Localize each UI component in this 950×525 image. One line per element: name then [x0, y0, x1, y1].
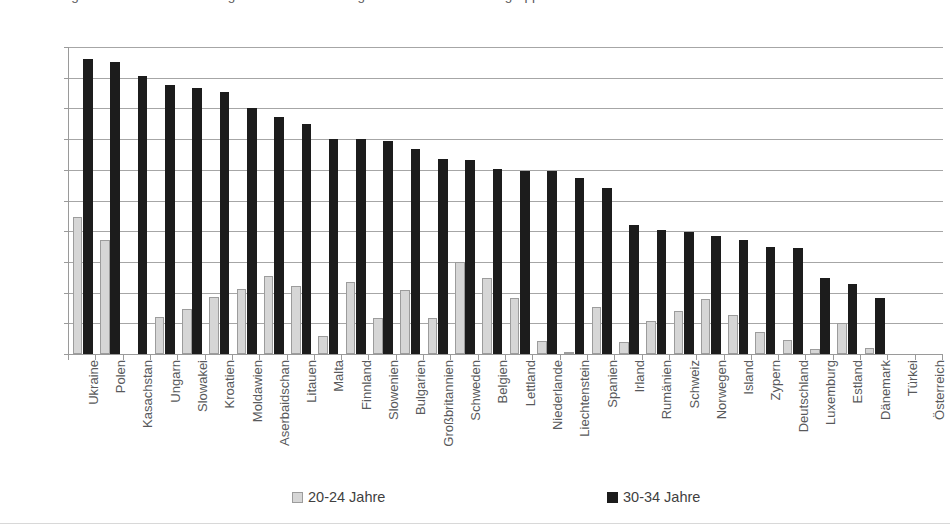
bar-series-30-34[interactable] [383, 141, 393, 354]
bar-series-30-34[interactable] [875, 298, 885, 354]
bar-group[interactable] [806, 47, 833, 354]
bar-series-20-24[interactable] [592, 307, 602, 354]
bar-group[interactable] [342, 47, 369, 354]
bar-group[interactable] [506, 47, 533, 354]
bar-series-20-24[interactable] [318, 336, 328, 354]
bar-series-20-24[interactable] [264, 276, 274, 354]
bar-series-20-24[interactable] [482, 278, 492, 354]
bar-group[interactable] [779, 47, 806, 354]
bar-series-20-24[interactable] [209, 297, 219, 354]
bar-group[interactable] [69, 47, 96, 354]
bar-series-20-24[interactable] [73, 217, 83, 354]
bar-group[interactable] [206, 47, 233, 354]
bar-group[interactable] [178, 47, 205, 354]
x-axis-label-schweiz: Schweiz [688, 360, 701, 408]
bar-series-30-34[interactable] [575, 178, 585, 354]
bar-series-20-24[interactable] [537, 341, 547, 354]
bar-series-20-24[interactable] [291, 286, 301, 354]
bar-group[interactable] [397, 47, 424, 354]
bar-series-20-24[interactable] [728, 315, 738, 354]
bar-group[interactable] [233, 47, 260, 354]
bar-series-30-34[interactable] [493, 169, 503, 354]
bar-series-20-24[interactable] [674, 311, 684, 354]
bar-group[interactable] [96, 47, 123, 354]
x-axis-label-ungarn: Ungarn [169, 360, 182, 403]
bar-series-30-34[interactable] [220, 92, 230, 354]
bar-group[interactable] [561, 47, 588, 354]
bar-series-30-34[interactable] [547, 171, 557, 354]
bar-series-20-24[interactable] [755, 332, 765, 354]
bar-series-20-24[interactable] [346, 282, 356, 354]
bar-group[interactable] [834, 47, 861, 354]
bar-series-20-24[interactable] [182, 309, 192, 354]
bar-group[interactable] [151, 47, 178, 354]
bar-group[interactable] [451, 47, 478, 354]
bar-series-30-34[interactable] [302, 124, 312, 354]
bar-series-30-34[interactable] [657, 230, 667, 354]
bar-group[interactable] [861, 47, 888, 354]
x-axis-labels: UkrainePolenKasachstanUngarnSlowakeiKroa… [68, 360, 944, 480]
bar-series-30-34[interactable] [274, 117, 284, 354]
bar-series-20-24[interactable] [155, 317, 165, 354]
bar-series-20-24[interactable] [510, 298, 520, 354]
bar-series-20-24[interactable] [400, 290, 410, 354]
bar-series-30-34[interactable] [820, 278, 830, 354]
bar-group[interactable] [124, 47, 151, 354]
bar-series-30-34[interactable] [438, 159, 448, 354]
bar-series-30-34[interactable] [83, 59, 93, 354]
bar-series-30-34[interactable] [192, 88, 202, 354]
x-axis-label-island: Island [742, 360, 755, 395]
bar-group[interactable] [615, 47, 642, 354]
bar-series-20-24[interactable] [646, 321, 656, 354]
bar-series-30-34[interactable] [793, 248, 803, 354]
bar-series-30-34[interactable] [411, 149, 421, 354]
bar-group[interactable] [725, 47, 752, 354]
bar-series-30-34[interactable] [684, 232, 694, 354]
bar-series-20-24[interactable] [865, 348, 875, 354]
bar-series-30-34[interactable] [766, 247, 776, 354]
bar-series-20-24[interactable] [428, 318, 438, 354]
legend-item-2[interactable]: 30-34 Jahre [607, 489, 700, 505]
legend-item-1[interactable]: 20-24 Jahre [292, 489, 385, 505]
bar-series-30-34[interactable] [329, 139, 339, 355]
x-axis-label-polen: Polen [114, 360, 127, 393]
bar-group[interactable] [752, 47, 779, 354]
bar-group[interactable] [369, 47, 396, 354]
bar-series-20-24[interactable] [810, 349, 820, 354]
bar-group[interactable] [288, 47, 315, 354]
bar-series-20-24[interactable] [237, 289, 247, 354]
bar-series-20-24[interactable] [701, 299, 711, 354]
bar-series-30-34[interactable] [356, 139, 366, 354]
bar-series-30-34[interactable] [110, 62, 120, 354]
bar-group[interactable] [670, 47, 697, 354]
bar-series-30-34[interactable] [711, 236, 721, 354]
bar-group[interactable] [533, 47, 560, 354]
bar-series-30-34[interactable] [739, 240, 749, 354]
bar-series-30-34[interactable] [602, 188, 612, 354]
bar-series-30-34[interactable] [247, 108, 257, 354]
bar-series-20-24[interactable] [100, 240, 110, 355]
bar-group[interactable] [888, 47, 915, 354]
bar-group[interactable] [315, 47, 342, 354]
bar-series-20-24[interactable] [619, 342, 629, 354]
bar-series-20-24[interactable] [373, 318, 383, 354]
bar-group[interactable] [424, 47, 451, 354]
bar-series-30-34[interactable] [848, 284, 858, 354]
bar-series-30-34[interactable] [165, 85, 175, 354]
bar-series-30-34[interactable] [465, 160, 475, 354]
bar-series-30-34[interactable] [138, 76, 148, 354]
bar-group[interactable] [260, 47, 287, 354]
bar-group[interactable] [697, 47, 724, 354]
bar-series-20-24[interactable] [783, 340, 793, 354]
bar-group[interactable] [643, 47, 670, 354]
bar-series-30-34[interactable] [629, 225, 639, 354]
bar-group[interactable] [479, 47, 506, 354]
x-axis-label-t-rkei: Türkei [906, 360, 919, 396]
x-axis-label-lettland: Lettland [524, 360, 537, 406]
bar-series-20-24[interactable] [455, 262, 465, 354]
bar-series-30-34[interactable] [520, 171, 530, 354]
bar-group[interactable] [916, 47, 943, 354]
bar-series-20-24[interactable] [564, 352, 574, 354]
bar-series-20-24[interactable] [837, 323, 847, 354]
bar-group[interactable] [588, 47, 615, 354]
